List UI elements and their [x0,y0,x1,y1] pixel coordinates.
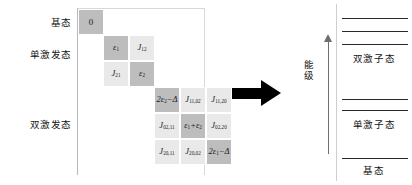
matrix-block-single: ε1 J12 J21 ε2 [103,35,155,87]
matrix-cell-value: J11,20 [211,95,226,105]
matrix-cell-ground-0-0: 0 [78,9,104,35]
figure-canvas: 基态 单激发态 双激发态 0 ε1 J12 J21 ε2 [0,0,412,185]
matrix-cell-single-1-0: J21 [103,61,129,87]
matrix-block-double: 2ε2−Δ J11,02 J11,20 J02,11 ε1+ε2 J02,20 … [154,87,232,165]
matrix-cell-single-1-1: ε2 [129,61,155,87]
energy-level-exciton-1 [342,110,408,111]
energy-level-exciton-2 [342,99,408,100]
row-label-double-excitation: 双激发态 [4,117,72,131]
matrix-cell-double-1-2: J02,20 [206,113,232,139]
matrix-cell-value: J02,11 [159,121,174,131]
matrix-cell-double-2-0: J20,11 [154,139,180,165]
matrix-cell-double-1-1: ε1+ε2 [180,113,206,139]
matrix-cell-double-0-1: J11,02 [180,87,206,113]
matrix-cell-value: J20,11 [159,147,174,157]
matrix-block-ground: 0 [78,9,104,35]
energy-label-ground: 基态 [338,163,410,177]
matrix-cell-value: J11,02 [185,95,200,105]
row-label-single-excitation: 单激发态 [4,47,72,61]
energy-label-exciton: 单激子态 [338,117,410,131]
matrix-cell-value: J02,20 [211,121,226,131]
arrow-shaft [232,88,262,99]
matrix-cell-value: ε1+ε2 [184,121,202,131]
matrix-cell-double-1-0: J02,11 [154,113,180,139]
matrix-cell-value: ε2 [139,69,145,79]
matrix-cell-double-0-2: J11,20 [206,87,232,113]
energy-level-ground [342,158,408,159]
energy-level-biexciton-2 [342,31,408,32]
matrix-cell-double-2-1: J20,02 [180,139,206,165]
energy-level-diagram: 能级 双激子态 单激子态 基态 [300,0,412,185]
matrix-cell-value: ε1 [113,43,119,53]
matrix-cell-single-0-1: J12 [129,35,155,61]
row-label-ground-state: 基态 [8,15,72,29]
energy-label-biexciton: 双激子态 [338,51,410,65]
energy-level-biexciton-1 [342,44,408,45]
arrow-head [261,80,281,106]
matrix-cell-double-2-2: 2ε1−Δ [206,139,232,165]
hamiltonian-matrix-panel: 基态 单激发态 双激发态 0 ε1 J12 J21 ε2 [0,0,206,185]
energy-axis-arrow [322,34,336,154]
matrix-cell-value: J12 [138,43,147,53]
matrix-cell-value: J21 [112,69,121,79]
transform-arrow-right [232,80,284,106]
matrix-cell-value: 0 [89,17,94,27]
matrix-cell-value: J20,02 [185,147,200,157]
energy-axis-label: 能级 [301,60,315,82]
matrix-cell-double-0-0: 2ε2−Δ [154,87,180,113]
matrix-cell-value: 2ε1−Δ [209,147,230,157]
energy-level-biexciton-3 [342,18,408,19]
matrix-cell-single-0-0: ε1 [103,35,129,61]
matrix-cell-value: 2ε2−Δ [157,95,178,105]
energy-axis-line [328,40,329,154]
